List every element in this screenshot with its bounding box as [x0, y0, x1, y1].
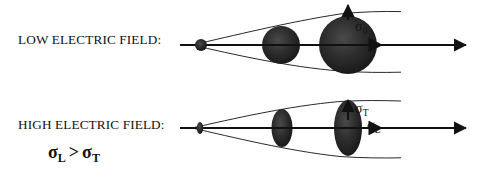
sigmaT-annotation: σT	[355, 101, 368, 117]
low-field-label: LOW ELECTRIC FIELD:	[18, 32, 161, 48]
inequality-right-subscript: T	[92, 151, 100, 165]
sigma0-subscript: 0	[363, 26, 368, 36]
sigmaL-annotation: σL	[367, 118, 380, 134]
inequality-left-symbol: σ	[48, 142, 58, 162]
high-field-label: HIGH ELECTRIC FIELD:	[18, 117, 165, 133]
sigmaT-subscript: T	[363, 108, 369, 118]
sigmaT-symbol: σ	[355, 101, 363, 116]
sigma-inequality: σL>σT	[48, 142, 100, 163]
sigma0-symbol: σ	[355, 19, 363, 34]
sigmaL-subscript: L	[375, 125, 381, 135]
high-field-diagram	[180, 100, 466, 158]
inequality-operator: >	[66, 142, 82, 162]
charge-cloud-small	[195, 39, 207, 51]
inequality-right-symbol: σ	[82, 142, 92, 162]
figure-root: LOW ELECTRIC FIELD: HIGH ELECTRIC FIELD:…	[0, 0, 477, 178]
inequality-left-subscript: L	[58, 151, 66, 165]
sigma0-annotation: σ0	[355, 19, 367, 35]
charge-cloud-small-elongated	[197, 122, 203, 134]
low-field-diagram	[180, 5, 466, 74]
sigmaL-symbol: σ	[367, 118, 375, 133]
